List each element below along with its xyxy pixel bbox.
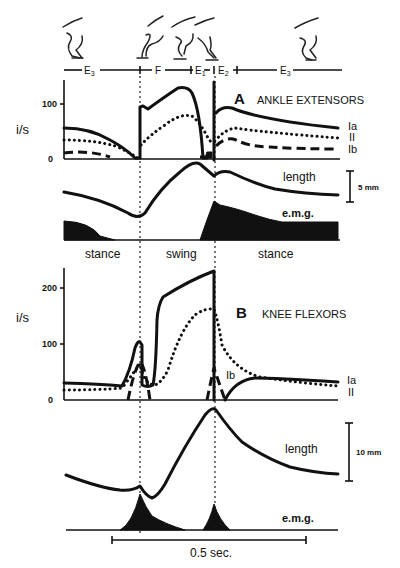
leg-posture-icon bbox=[195, 18, 218, 60]
y-axis-label: i/s bbox=[16, 310, 30, 325]
panel-letter: A bbox=[234, 90, 245, 107]
legend-ia: Ia bbox=[347, 374, 357, 386]
time-scale-bar: 0.5 sec. bbox=[112, 536, 306, 560]
y-axis-label: i/s bbox=[16, 122, 30, 137]
leg-posture-icon bbox=[137, 16, 163, 58]
phase-label: E2 bbox=[218, 65, 229, 77]
leg-posture-icon bbox=[63, 18, 83, 58]
leg-posture-icon bbox=[172, 17, 195, 59]
legend-ii: II bbox=[348, 386, 354, 398]
emg-burst bbox=[203, 504, 230, 530]
panel-b: 200 100 0 i/s B KNEE FLEXORS Ib Ia II le… bbox=[16, 268, 381, 530]
series-ia bbox=[64, 271, 338, 400]
panel-a: 100 0 i/s A ANKLE EXTENSORS Ia II Ib len… bbox=[16, 80, 379, 240]
series-ii bbox=[64, 309, 338, 390]
scale-label: 5 mm bbox=[358, 183, 379, 192]
emg-label: e.m.g. bbox=[282, 207, 314, 219]
emg-burst bbox=[200, 201, 338, 240]
time-scale-label: 0.5 sec. bbox=[190, 546, 232, 560]
stance-label: stance bbox=[85, 247, 121, 261]
swing-label: swing bbox=[166, 247, 197, 261]
length-label: length bbox=[285, 442, 318, 456]
figure: E3 F E1 E2 E3 100 0 i/s A ANKLE EXTENSOR… bbox=[0, 0, 400, 568]
emg-label: e.m.g. bbox=[282, 512, 314, 524]
ib-label: Ib bbox=[226, 369, 235, 381]
phase-label: E3 bbox=[280, 65, 291, 77]
y-tick-label: 0 bbox=[48, 395, 53, 405]
stance-label: stance bbox=[258, 247, 294, 261]
length-label: length bbox=[283, 170, 316, 184]
leg-posture-icons bbox=[63, 16, 318, 60]
y-tick-label: 200 bbox=[42, 283, 57, 293]
emg-burst bbox=[64, 221, 115, 240]
leg-posture-icon bbox=[295, 18, 318, 60]
y-tick-label: 0 bbox=[48, 154, 53, 164]
phase-label: E3 bbox=[84, 65, 95, 77]
legend-ib: Ib bbox=[348, 143, 357, 155]
y-tick-label: 100 bbox=[42, 99, 57, 109]
panel-title: KNEE FLEXORS bbox=[262, 308, 346, 320]
panel-letter: B bbox=[236, 304, 247, 321]
scale-label: 10 mm bbox=[356, 448, 381, 457]
legend-ii: II bbox=[349, 131, 355, 143]
y-tick-label: 100 bbox=[42, 339, 57, 349]
phase-label: E1 bbox=[195, 65, 206, 77]
panel-title: ANKLE EXTENSORS bbox=[257, 94, 364, 106]
phase-bar: E3 F E1 E2 E3 bbox=[64, 65, 342, 77]
ib-burst bbox=[205, 152, 212, 158]
phase-label: F bbox=[155, 65, 161, 76]
